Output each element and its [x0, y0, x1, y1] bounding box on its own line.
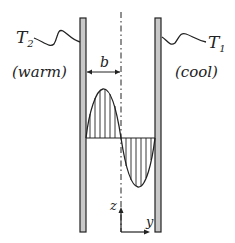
- b-dimension-arrow: [87, 70, 120, 75]
- t2-wire: [34, 30, 80, 45]
- t2-label: T2: [16, 27, 34, 49]
- warm-label: (warm): [12, 63, 67, 81]
- t1-wire: [162, 34, 206, 45]
- z-axis-label: z: [109, 198, 117, 213]
- natural-convection-diagram: T2 T1 (warm) (cool) b z y: [0, 0, 235, 243]
- cool-label: (cool): [175, 63, 218, 81]
- right-wall-cool: [155, 18, 161, 232]
- t1-label: T1: [208, 32, 226, 54]
- y-axis-label: y: [145, 214, 154, 229]
- downward-flow-hatching: [126, 138, 151, 186]
- left-wall-warm: [80, 18, 86, 232]
- b-label: b: [100, 54, 109, 70]
